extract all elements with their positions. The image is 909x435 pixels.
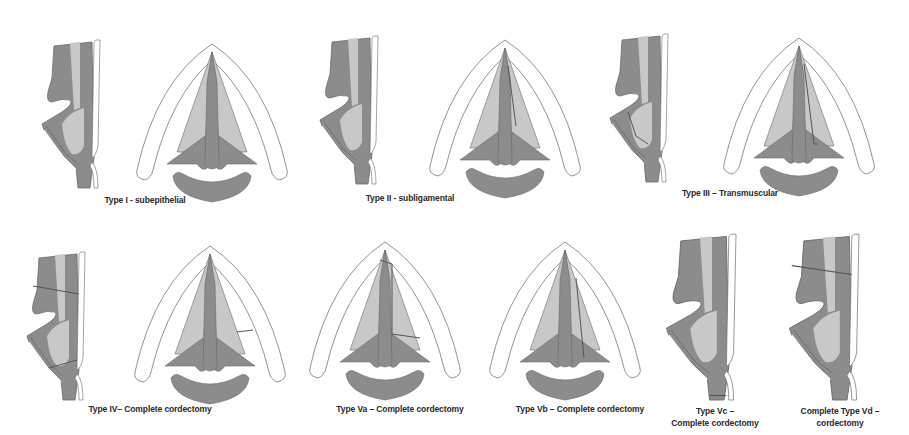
label-type-vb: Type Vb – Complete cordectomy xyxy=(505,404,655,415)
coronal-section-type-i xyxy=(40,38,102,188)
label-type-va: Type Va – Complete cordectomy xyxy=(325,404,475,415)
label-type-iv: Type IV– Complete cordectomy xyxy=(80,404,220,415)
label-type-i: Type I - subepithelial xyxy=(90,195,200,206)
label-type-vd-line1: Complete Type Vd – xyxy=(790,406,890,417)
resection-line xyxy=(237,330,253,332)
label-type-vd-line2: cordectomy xyxy=(800,418,880,429)
coronal-section-type-iv xyxy=(25,250,87,400)
label-type-ii: Type II - subligamental xyxy=(350,193,470,204)
coronal-section-type-iii xyxy=(608,32,670,182)
axial-glottis-type-ii xyxy=(420,36,590,201)
coronal-section-type-vc xyxy=(664,232,744,402)
coronal-section-type-vd xyxy=(787,232,867,402)
axial-glottis-type-vb xyxy=(480,238,650,403)
axial-glottis-type-va xyxy=(300,238,470,403)
axial-glottis-type-i xyxy=(127,40,297,205)
axial-glottis-type-iv xyxy=(125,242,295,407)
label-type-vc-line1: Type Vc – xyxy=(670,406,760,417)
coronal-section-type-ii xyxy=(318,34,380,184)
label-type-vc-line2: Complete cordectomy xyxy=(660,418,770,429)
axial-glottis-type-iii xyxy=(714,34,884,199)
